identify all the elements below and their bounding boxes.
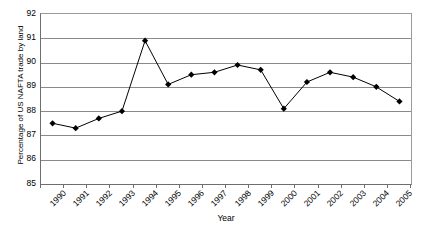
x-axis-title: Year (40, 212, 412, 224)
data-point-marker (96, 115, 102, 121)
data-point-marker (165, 81, 171, 87)
y-axis-tick-label: 92 (14, 9, 36, 18)
y-axis-tick-label: 86 (14, 154, 36, 163)
data-point-marker (49, 120, 55, 126)
data-point-marker (396, 98, 402, 104)
data-point-marker (234, 62, 240, 68)
y-axis-tick-label: 91 (14, 33, 36, 42)
data-point-marker (258, 67, 264, 73)
chart-figure: Percentage of US NAFTA trade by land 858… (0, 0, 425, 233)
data-point-marker (73, 125, 79, 131)
y-axis-tick-label: 88 (14, 106, 36, 115)
plot-area (40, 13, 412, 185)
y-axis-tick-label: 85 (14, 179, 36, 188)
data-point-marker (188, 72, 194, 78)
data-series-line (41, 14, 411, 184)
y-axis-tick-label: 87 (14, 130, 36, 139)
data-point-marker (350, 74, 356, 80)
data-point-marker (142, 38, 148, 44)
y-axis-tick-labels: 8586878889909192 (14, 0, 36, 233)
series-line (53, 41, 400, 128)
data-point-marker (327, 69, 333, 75)
data-point-marker (373, 84, 379, 90)
y-axis-tick-label: 89 (14, 81, 36, 90)
y-axis-tick-label: 90 (14, 57, 36, 66)
data-point-marker (119, 108, 125, 114)
data-point-marker (211, 69, 217, 75)
